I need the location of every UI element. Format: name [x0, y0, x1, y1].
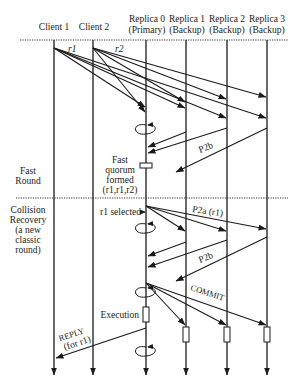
execution-annotation: Execution: [100, 310, 139, 320]
execution-box-replica3: [264, 327, 270, 342]
paxos-sequence-diagram: Client 1 Client 2 Replica 0 (Primary) Re…: [0, 0, 299, 390]
execution-box-replica1: [183, 327, 189, 342]
label-p2a: P2a (r1): [192, 204, 224, 219]
r1-selected-annotation: r1 selected: [100, 207, 141, 217]
r1-broadcast-arrows: [54, 48, 266, 118]
svg-text:Recovery: Recovery: [10, 215, 47, 225]
svg-text:Collision: Collision: [11, 205, 46, 215]
header-replica2: Replica 2: [209, 14, 245, 24]
phase-label-fast-round: Fast Round: [15, 166, 41, 186]
label-r1: r1: [68, 44, 76, 54]
header-client2: Client 2: [79, 22, 110, 32]
svg-text:Fast: Fast: [20, 166, 36, 176]
svg-text:classic: classic: [15, 235, 40, 245]
label-p2b-fast: P2b: [197, 140, 215, 155]
reply-label: REPLY (for r1): [57, 324, 92, 353]
fast-quorum-annotation: Fast quorum formed (r1,r1,r2): [103, 155, 138, 196]
header-replica2-role: (Backup): [209, 25, 244, 36]
header-replica1: Replica 1: [169, 14, 205, 24]
quorum-marker: [140, 163, 152, 168]
participant-headers: Client 1 Client 2 Replica 0 (Primary) Re…: [39, 14, 285, 36]
svg-text:quorum: quorum: [105, 165, 135, 175]
execution-box-replica2: [224, 327, 230, 342]
execution-box-replica0: [143, 307, 149, 322]
label-r2: r2: [115, 44, 124, 54]
header-replica0-role: (Primary): [129, 25, 166, 36]
r2-broadcast-arrows: [93, 48, 266, 112]
header-replica1-role: (Backup): [169, 25, 204, 36]
svg-text:formed: formed: [106, 175, 134, 185]
phase-label-collision-recovery: Collision Recovery (a new classic round): [10, 205, 47, 256]
label-p2b-classic: P2b: [197, 250, 215, 265]
header-client1: Client 1: [39, 22, 70, 32]
header-replica0: Replica 0: [129, 14, 165, 24]
header-replica3-role: (Backup): [249, 25, 284, 36]
header-replica3: Replica 3: [249, 14, 285, 24]
lifelines: [54, 40, 267, 375]
svg-text:(r1,r1,r2): (r1,r1,r2): [103, 185, 138, 196]
svg-text:Round: Round: [15, 176, 41, 186]
svg-text:round): round): [15, 245, 40, 256]
svg-text:Fast: Fast: [112, 155, 128, 165]
